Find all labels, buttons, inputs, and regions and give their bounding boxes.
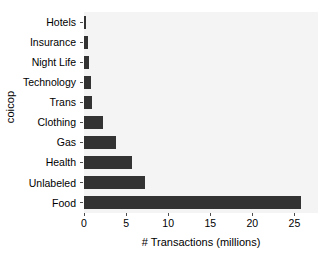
bar-insurance [84, 36, 88, 49]
y-axis-tick-label: Technology [18, 77, 80, 88]
bar-row [84, 32, 318, 52]
bar-food [84, 196, 301, 209]
y-axis-tick-label: Night Life [18, 57, 80, 68]
x-axis-tick-mark [294, 213, 295, 216]
bar-row [84, 153, 318, 173]
x-axis-tick-marks [84, 213, 318, 217]
x-axis-tick-mark [252, 213, 253, 216]
bar-row [84, 133, 318, 153]
bar-health [84, 156, 132, 169]
bar-technology [84, 76, 91, 89]
y-axis-tick-label: Trans [18, 97, 80, 108]
y-axis-tick-mark [80, 122, 83, 123]
bar-row [84, 12, 318, 32]
y-axis-tick-mark [80, 202, 83, 203]
bar-hotels [84, 16, 86, 29]
bar-gas [84, 136, 116, 149]
y-axis-tick-label: Hotels [18, 17, 80, 28]
x-axis-tick-mark [126, 213, 127, 216]
bars-layer [84, 12, 318, 213]
bar-row [84, 112, 318, 132]
y-axis-tick-mark [80, 82, 83, 83]
bar-row [84, 92, 318, 112]
bar-chart: coicop HotelsInsuranceNight LifeTechnolo… [0, 0, 325, 265]
y-axis-tick-labels: HotelsInsuranceNight LifeTechnologyTrans… [18, 12, 80, 213]
x-axis-tick-mark [84, 213, 85, 216]
y-axis-title-text: coicop [4, 90, 16, 122]
y-axis-tick-label: Gas [18, 137, 80, 148]
y-axis-title: coicop [0, 0, 20, 213]
bar-row [84, 72, 318, 92]
y-axis-tick-mark [80, 182, 83, 183]
bar-night-life [84, 56, 89, 69]
bar-trans [84, 96, 92, 109]
y-axis-tick-label: Insurance [18, 37, 80, 48]
y-axis-tick-mark [80, 62, 83, 63]
x-axis-tick-label: 25 [289, 218, 301, 229]
bar-clothing [84, 116, 103, 129]
plot-panel [84, 12, 318, 213]
x-axis-tick-label: 5 [123, 218, 129, 229]
x-axis-tick-labels: 0510152025 [84, 218, 318, 232]
x-axis-tick-label: 20 [247, 218, 259, 229]
y-axis-tick-mark [80, 142, 83, 143]
y-axis-tick-mark [80, 162, 83, 163]
x-axis-tick-label: 15 [204, 218, 216, 229]
y-axis-tick-label: Food [18, 198, 80, 209]
y-axis-tick-mark [80, 42, 83, 43]
y-axis-tick-label: Clothing [18, 117, 80, 128]
x-axis-title: # Transactions (millions) [84, 236, 318, 248]
x-axis-tick-label: 0 [81, 218, 87, 229]
y-axis-tick-label: Health [18, 157, 80, 168]
x-axis-tick-label: 10 [162, 218, 174, 229]
x-axis-tick-mark [210, 213, 211, 216]
bar-row [84, 52, 318, 72]
bar-row [84, 193, 318, 213]
x-axis-tick-mark [168, 213, 169, 216]
y-axis-tick-mark [80, 22, 83, 23]
y-axis-tick-mark [80, 102, 83, 103]
y-axis-tick-label: Unlabeled [18, 178, 80, 189]
bar-unlabeled [84, 176, 145, 189]
bar-row [84, 173, 318, 193]
